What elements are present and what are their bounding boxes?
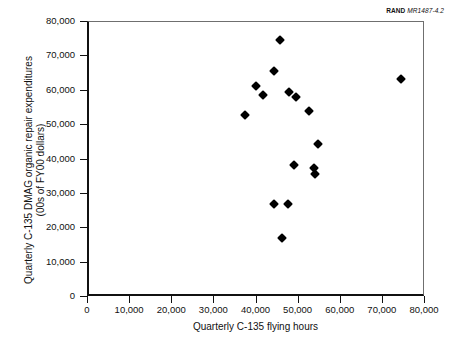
scatter-plot-figure: RAND MR1487-4.2 Quarterly C-135 DMAG org… [0,0,452,346]
x-axis-tick [129,296,130,303]
y-axis-tick-label: 60,000 [46,85,75,95]
x-axis-tick-label: 20,000 [157,305,186,315]
x-axis-tick [256,296,257,303]
x-axis-tick-label: 60,000 [325,305,354,315]
y-axis-tick [80,21,87,22]
y-axis-tick-label: 30,000 [46,188,75,198]
y-axis-title-line1: Quarterly C-135 DMAG organic repair expe… [23,30,35,310]
y-axis-tick [80,262,87,263]
x-axis-tick-label: 0 [84,305,89,315]
x-axis-tick [340,296,341,303]
x-axis-tick [171,296,172,303]
rand-brand-label: RAND [386,7,405,14]
y-axis-tick [80,55,87,56]
x-axis-tick [298,296,299,303]
x-axis-tick [382,296,383,303]
y-axis-tick-label: 40,000 [46,154,75,164]
y-axis-tick-label: 70,000 [46,51,75,61]
x-axis-tick [87,296,88,303]
y-axis-tick [80,193,87,194]
document-number-label: MR1487-4.2 [407,7,444,14]
y-axis-title-line2: (00s of FY00 dollars) [35,30,47,310]
x-axis-tick [213,296,214,303]
y-axis-tick [80,296,87,297]
y-axis-tick-label: 80,000 [46,16,75,26]
x-axis-tick-label: 40,000 [241,305,270,315]
source-credit: RAND MR1487-4.2 [386,8,444,15]
y-axis-tick [80,90,87,91]
x-axis-tick [424,296,425,303]
x-axis-title: Quarterly C-135 flying hours [87,322,424,332]
x-axis-tick-label: 70,000 [367,305,396,315]
x-axis-tick-label: 80,000 [409,305,438,315]
y-axis-title: Quarterly C-135 DMAG organic repair expe… [23,30,47,310]
x-axis-tick-label: 30,000 [199,305,228,315]
y-axis-tick-label: 50,000 [46,119,75,129]
x-axis-tick-label: 10,000 [115,305,144,315]
y-axis-tick [80,227,87,228]
y-axis-tick [80,159,87,160]
y-axis-tick-label: 10,000 [46,257,75,267]
plot-frame [87,21,424,296]
y-axis-tick-label: 0 [70,291,75,301]
x-axis-tick-label: 50,000 [283,305,312,315]
y-axis-tick-label: 20,000 [46,223,75,233]
y-axis-tick [80,124,87,125]
